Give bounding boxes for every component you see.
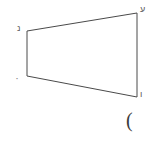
vertex-label-top-left: נ: [17, 24, 21, 33]
parenthesis-mark: (: [126, 110, 133, 130]
vertex-label-bottom-right: ו: [140, 90, 142, 99]
vertex-label-top-right: ע: [140, 5, 145, 14]
